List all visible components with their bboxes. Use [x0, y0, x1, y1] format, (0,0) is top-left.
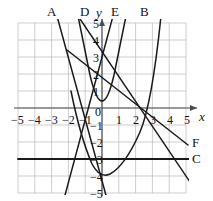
curve-label-B: B [140, 5, 149, 18]
x-tick-4: 4 [167, 114, 173, 126]
x-tick-3: 3 [150, 114, 156, 126]
y-tick--1: −1 [90, 120, 103, 132]
x-tick-1: 1 [116, 114, 122, 126]
y-tick-1: 1 [93, 86, 99, 98]
x-tick-0: 0 [95, 106, 101, 118]
y-tick-2: 2 [93, 69, 99, 81]
x-axis-arrow [190, 105, 197, 111]
y-tick--3: −3 [90, 154, 103, 166]
curve-label-F: F [192, 136, 199, 149]
y-tick-4: 4 [93, 35, 99, 47]
curve-label-D: D [80, 5, 89, 18]
y-tick--4: −4 [90, 171, 103, 183]
x-tick-2: 2 [133, 114, 139, 126]
x-tick--4: −4 [28, 114, 41, 126]
x-tick--5: −5 [11, 114, 24, 126]
curve-label-C: C [192, 152, 201, 165]
coordinate-plane [0, 0, 213, 201]
graph-figure: A D E B F C y x −5 −4 −3 −2 −1 0 1 2 3 4… [0, 0, 213, 201]
y-tick--5: −5 [90, 188, 103, 200]
x-tick-5: 5 [184, 114, 190, 126]
curve-label-E: E [111, 5, 119, 18]
y-tick-3: 3 [93, 52, 99, 64]
y-axis-arrow [99, 19, 105, 26]
y-tick-5: 5 [93, 18, 99, 30]
axis-arrowheads [99, 19, 197, 111]
y-tick--2: −2 [90, 137, 103, 149]
x-axis-variable-label: x [199, 110, 205, 123]
curve-label-A: A [47, 5, 56, 18]
x-tick--3: −3 [45, 114, 58, 126]
x-tick--2: −2 [62, 114, 75, 126]
